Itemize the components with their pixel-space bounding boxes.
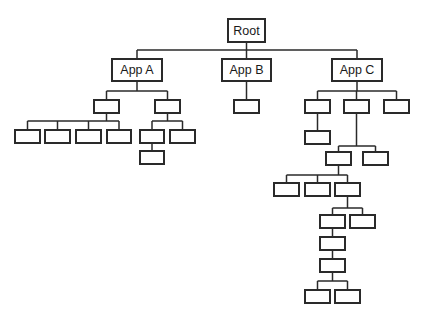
- node-root-label: Root: [233, 24, 260, 38]
- node: [140, 151, 164, 164]
- node: [350, 215, 375, 228]
- node: [140, 130, 164, 143]
- unlabeled-nodes: [15, 100, 409, 303]
- node-app-b-label: App B: [229, 63, 263, 77]
- node: [234, 100, 259, 113]
- tree-diagram: Root App A App B App C: [0, 0, 426, 316]
- node: [335, 290, 360, 303]
- node-app-c-label: App C: [340, 63, 375, 77]
- node-app-a-label: App A: [120, 63, 154, 77]
- node: [320, 237, 345, 250]
- node: [305, 183, 330, 196]
- node: [363, 152, 388, 165]
- node: [305, 290, 330, 303]
- node-app-b: App B: [222, 59, 271, 81]
- node-root: Root: [228, 19, 265, 42]
- node: [76, 130, 101, 143]
- node: [15, 130, 40, 143]
- node: [94, 100, 119, 113]
- node: [335, 183, 360, 196]
- node: [107, 130, 131, 143]
- node: [305, 100, 330, 113]
- node: [274, 183, 299, 196]
- node: [320, 215, 345, 228]
- node: [170, 130, 195, 143]
- node: [326, 152, 351, 165]
- node-app-c: App C: [332, 59, 382, 81]
- node: [155, 100, 180, 113]
- node-app-a: App A: [112, 59, 162, 81]
- node: [45, 130, 70, 143]
- node: [344, 100, 369, 113]
- node: [305, 131, 330, 144]
- node: [384, 100, 409, 113]
- node: [320, 259, 345, 272]
